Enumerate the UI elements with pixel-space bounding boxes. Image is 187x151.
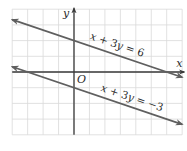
origin-label: O bbox=[77, 73, 86, 86]
y-axis-label: y bbox=[62, 7, 70, 20]
line-series-1 bbox=[12, 20, 182, 78]
line-series-2 bbox=[12, 67, 182, 125]
x-axis-label: x bbox=[176, 57, 183, 70]
equation-label-1: x + 3y = 6 bbox=[89, 30, 146, 59]
coordinate-graph: x y O x + 3y = 6x + 3y = −3 bbox=[0, 0, 187, 151]
equation-label-2: x + 3y = −3 bbox=[100, 81, 165, 113]
